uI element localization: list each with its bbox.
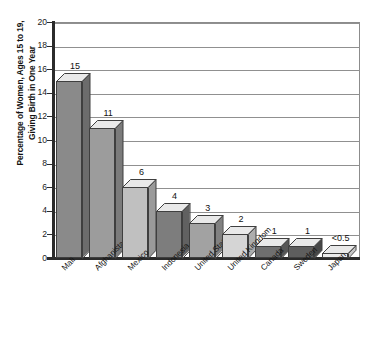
bar-united-kingdom[interactable]: 2 bbox=[222, 0, 256, 347]
bar-value-label: 4 bbox=[158, 191, 192, 201]
y-tick-mark bbox=[47, 22, 52, 23]
bar-sweden[interactable]: 1 bbox=[288, 0, 322, 347]
bar-japan[interactable]: <0.5 bbox=[322, 0, 356, 347]
y-tick-mark bbox=[47, 69, 52, 70]
bar-value-label: 11 bbox=[91, 108, 125, 118]
x-tick-label: Indonesia bbox=[160, 241, 191, 272]
bar-mexico[interactable]: 6 bbox=[122, 0, 156, 347]
y-tick-mark bbox=[47, 234, 52, 235]
x-tick-label: Afghanistan bbox=[93, 236, 130, 273]
y-tick-mark bbox=[47, 116, 52, 117]
x-tick-label: Canada bbox=[259, 246, 285, 272]
bar-side-outline bbox=[348, 245, 357, 259]
bar-value-label: 15 bbox=[58, 61, 92, 71]
bar-canada[interactable]: 1 bbox=[255, 0, 289, 347]
x-tick-label: Japan bbox=[326, 250, 348, 272]
bar-value-label: 6 bbox=[124, 167, 158, 177]
bar-value-label: <0.5 bbox=[324, 233, 358, 243]
y-tick-mark bbox=[47, 164, 52, 165]
bar-value-label: 3 bbox=[191, 203, 225, 213]
bar-afghanistan[interactable]: 11 bbox=[89, 0, 123, 347]
bar-top-face bbox=[89, 120, 124, 130]
bars-layer: 15Mali11Afghanistan6Mexico4Indonesia3Uni… bbox=[0, 0, 371, 347]
y-tick-mark bbox=[47, 211, 52, 212]
bar-side-outline bbox=[148, 179, 157, 259]
bar-front-face bbox=[89, 128, 115, 258]
bar-top-face bbox=[288, 238, 323, 248]
bar-chart: Percentage of Women, Ages 15 to 19, Givi… bbox=[0, 0, 371, 347]
bar-top-face bbox=[122, 179, 157, 189]
bar-front-face bbox=[56, 81, 82, 258]
y-tick-mark bbox=[47, 46, 52, 47]
bar-top-face bbox=[156, 203, 191, 213]
bar-side-face bbox=[348, 245, 356, 258]
bar-top-face bbox=[189, 215, 224, 225]
bar-value-label: 1 bbox=[290, 226, 324, 236]
bar-indonesia[interactable]: 4 bbox=[156, 0, 190, 347]
y-tick-mark bbox=[47, 93, 52, 94]
x-tick-label: Sweden bbox=[292, 245, 319, 272]
bar-value-label: 2 bbox=[224, 214, 258, 224]
bar-top-face bbox=[56, 73, 91, 83]
x-tick-label: Mali bbox=[60, 256, 77, 273]
bar-side-face bbox=[82, 73, 90, 258]
bar-side-outline bbox=[82, 73, 91, 259]
bar-united-states[interactable]: 3 bbox=[189, 0, 223, 347]
x-tick-label: Mexico bbox=[126, 248, 150, 272]
y-tick-mark bbox=[47, 140, 52, 141]
y-tick-mark bbox=[47, 258, 52, 259]
bar-mali[interactable]: 15 bbox=[56, 0, 90, 347]
bar-side-face bbox=[148, 179, 156, 258]
y-tick-mark bbox=[47, 187, 52, 188]
